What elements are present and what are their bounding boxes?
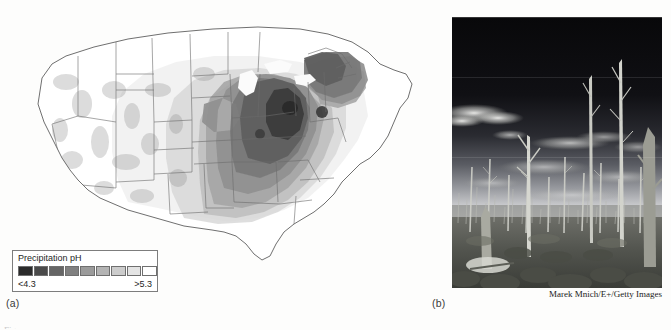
figure-caption-partial: Figure [4,325,154,329]
legend-swatch-7 [111,266,126,276]
legend-swatch-1 [18,266,33,276]
legend-swatch-6 [96,266,111,276]
legend-swatch-row [18,266,157,276]
legend-swatch-3 [49,266,64,276]
ph-hotspot-indiana [255,129,265,139]
photo-svg [452,17,662,288]
panel-a-map: Precipitation pH <4.3 >5.3 (a) [0,0,448,330]
dead-forest-photograph [452,17,662,288]
legend-swatch-4 [65,266,80,276]
legend-max-label: >5.3 [134,279,152,289]
legend-min-label: <4.3 [18,279,36,289]
photo-credit: Marek Mnich/E+/Getty Images [452,289,662,299]
ph-hotspot-pennsylvania [316,106,328,118]
panel-a-label: (a) [6,297,19,309]
precipitation-ph-map [8,12,438,282]
ph-band-layer [8,12,438,282]
panel-b-photo [452,17,662,288]
legend-swatch-9 [142,266,157,276]
legend-swatch-8 [127,266,142,276]
panel-b-label: (b) [432,297,445,309]
legend-title: Precipitation pH [18,253,82,263]
map-svg [8,12,438,282]
map-legend: Precipitation pH <4.3 >5.3 [12,250,158,292]
legend-swatch-2 [34,266,49,276]
legend-swatch-5 [80,266,95,276]
